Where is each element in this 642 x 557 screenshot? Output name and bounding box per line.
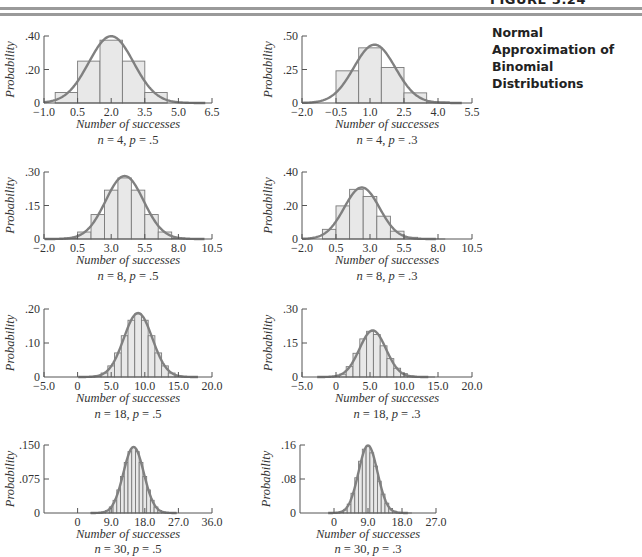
binomial-charts-grid: 0.20.40−1.00.52.03.55.06.5ProbabilityNum… [0, 0, 642, 557]
x-tick-label: 36.0 [202, 515, 223, 529]
chart-caption: n = 4, p = .3 [357, 133, 418, 147]
histogram-bar [135, 452, 139, 513]
histogram-bars [336, 48, 449, 103]
y-axis-title: Probability [3, 177, 17, 235]
histogram-bar [145, 215, 158, 239]
histogram-bars [55, 40, 167, 103]
y-axis-title: Probability [3, 314, 17, 372]
y-tick-label: .50 [283, 29, 298, 43]
x-axis-title: Number of successes [75, 527, 180, 541]
x-tick-label: 10.5 [202, 241, 223, 255]
x-tick-label: 20.0 [462, 379, 483, 393]
x-tick-label: −2.0 [33, 241, 55, 255]
histogram-bar [366, 446, 370, 513]
y-tick-label: .15 [25, 199, 40, 213]
x-tick-label: −2.0 [291, 241, 313, 255]
histogram-bar [128, 452, 132, 513]
y-tick-label: .150 [19, 438, 40, 452]
y-tick-label: .15 [283, 336, 298, 350]
histogram-bar [373, 335, 380, 377]
chart-caption: n = 8, p = .3 [357, 269, 418, 283]
x-axis-title: Number of successes [75, 253, 180, 267]
y-tick-label: .40 [283, 165, 298, 179]
y-axis-title: Probability [259, 450, 273, 508]
y-tick-label: .075 [19, 472, 40, 486]
chart-caption: n = 30, p = .3 [334, 542, 401, 556]
histogram-bar [78, 61, 100, 103]
histogram-bar [135, 314, 142, 377]
histogram-bar [363, 196, 377, 239]
y-axis-title: Probability [261, 41, 275, 99]
x-tick-label: 6.5 [205, 105, 220, 119]
x-axis-title: Number of successes [75, 117, 180, 131]
histogram-bar [336, 71, 359, 103]
histogram-bar [377, 216, 391, 239]
chart-caption: n = 4, p = .5 [98, 133, 159, 147]
x-tick-label: −5.0 [33, 379, 55, 393]
histogram-bar [370, 453, 374, 513]
histogram-bar [100, 40, 122, 103]
y-tick-label: .30 [283, 302, 298, 316]
chart-panel: 0.20.40−1.00.52.03.55.06.5ProbabilityNum… [3, 29, 220, 147]
x-axis-title: Number of successes [334, 253, 439, 267]
y-tick-label: .40 [25, 29, 40, 43]
chart-caption: n = 30, p = .5 [94, 542, 161, 556]
y-tick-label: .16 [281, 438, 296, 452]
x-axis-title: Number of successes [334, 117, 439, 131]
x-tick-label: 5.5 [465, 105, 480, 119]
chart-panel: 0.25.50−2.0−0.51.02.54.05.5ProbabilityNu… [261, 29, 480, 147]
x-axis-title: Number of successes [75, 391, 180, 405]
y-tick-label: .10 [25, 336, 40, 350]
x-axis-title: Number of successes [334, 391, 439, 405]
histogram-bar [141, 320, 148, 377]
y-axis-title: Probability [261, 177, 275, 235]
y-axis-title: Probability [3, 41, 17, 99]
y-tick-label: .20 [25, 302, 40, 316]
chart-panel: 0.15.30−5.005.010.015.020.0ProbabilityNu… [261, 302, 483, 421]
y-tick-label: 0 [290, 506, 296, 520]
y-tick-label: .20 [25, 63, 40, 77]
x-tick-label: 27.0 [426, 515, 447, 529]
y-axis-title: Probability [261, 314, 275, 372]
histogram-bar [91, 215, 104, 239]
y-tick-label: 0 [34, 506, 40, 520]
x-tick-label: 10.5 [462, 241, 483, 255]
histogram-bars [81, 314, 195, 377]
chart-caption: n = 18, p = .3 [353, 407, 420, 421]
y-tick-label: .20 [283, 199, 298, 213]
histogram-bars [332, 446, 411, 513]
histogram-bars [91, 448, 177, 513]
y-tick-label: .08 [281, 472, 296, 486]
chart-panel: 0.10.20−5.005.010.015.020.0ProbabilityNu… [3, 302, 223, 421]
y-axis-title: Probability [3, 450, 17, 508]
x-tick-label: −2.0 [291, 105, 313, 119]
chart-panel: 0.08.1609.018.027.0ProbabilityNumber of … [259, 438, 447, 556]
histogram-bars [64, 178, 185, 239]
y-tick-label: .25 [283, 63, 298, 77]
chart-panel: 0.15.30−2.00.53.05.58.010.5ProbabilityNu… [3, 165, 223, 283]
x-tick-label: −1.0 [33, 105, 55, 119]
histogram-bar [122, 61, 144, 103]
y-tick-label: .30 [25, 165, 40, 179]
chart-caption: n = 18, p = .5 [94, 407, 161, 421]
x-axis-title: Number of successes [315, 527, 420, 541]
chart-caption: n = 8, p = .5 [98, 269, 159, 283]
histogram-bar [132, 448, 136, 513]
chart-panel: 0.075.15009.018.027.036.0ProbabilityNumb… [3, 438, 223, 556]
histogram-bar [367, 331, 374, 377]
histogram-bar [381, 68, 404, 103]
histogram-bar [128, 320, 135, 377]
chart-panel: 0.20.40−2.00.53.05.58.010.5ProbabilityNu… [261, 165, 483, 283]
x-tick-label: 20.0 [202, 379, 223, 393]
x-tick-label: −5.0 [291, 379, 313, 393]
histogram-bar [118, 178, 131, 239]
